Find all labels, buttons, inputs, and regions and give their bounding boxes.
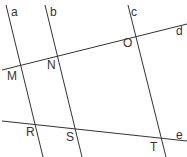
line-label-e: e	[176, 129, 183, 141]
line-label-c: c	[131, 6, 137, 18]
line-b	[45, 5, 82, 157]
line-label-d: d	[176, 25, 183, 37]
point-label-s: S	[66, 131, 74, 143]
point-label-o: O	[123, 37, 132, 49]
geometry-diagram: a b c d e M N O R S T	[0, 0, 187, 157]
point-label-t: T	[150, 141, 157, 153]
line-label-b: b	[50, 6, 57, 18]
point-label-r: R	[26, 126, 35, 138]
point-label-m: M	[7, 70, 17, 82]
line-c	[128, 5, 166, 157]
point-label-n: N	[47, 59, 56, 71]
line-label-a: a	[11, 6, 18, 18]
line-d	[2, 24, 187, 70]
